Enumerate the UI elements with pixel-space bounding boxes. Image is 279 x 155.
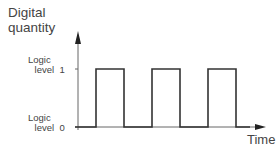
waveform-diagram (0, 0, 279, 155)
x-axis-arrow-icon (255, 124, 266, 130)
y-axis-arrow-icon (75, 31, 81, 44)
square-wave-signal (75, 69, 250, 127)
